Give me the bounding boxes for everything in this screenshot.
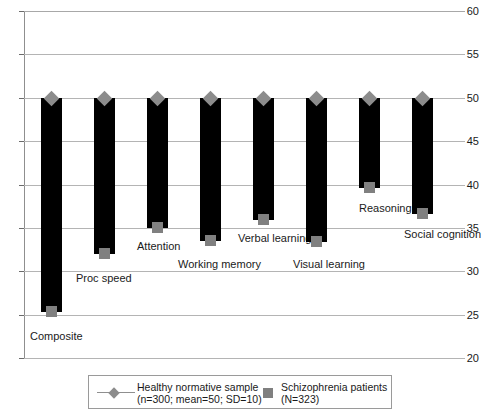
range-bar-verbal-learning [253, 98, 274, 220]
chart-legend: Healthy normative sample (n=300; mean=50… [88, 375, 392, 409]
gridline-20 [24, 358, 465, 359]
y-tick-mark-25 [19, 315, 24, 316]
gridline-35 [24, 228, 465, 229]
y-tick-label-25: 25 [459, 310, 479, 321]
legend-label-schizophrenia-line2: (N=323) [281, 393, 387, 405]
square-marker-icon [263, 388, 273, 398]
y-tick-mark-40 [19, 185, 24, 186]
y-tick-label-50: 50 [459, 93, 479, 104]
gridline-60 [24, 11, 465, 12]
y-tick-label-45: 45 [459, 136, 479, 147]
legend-label-schizophrenia: Schizophrenia patients (N=323) [281, 381, 387, 405]
category-label-working-memory: Working memory [178, 258, 261, 270]
marker-schizophrenia-visual-learning [311, 236, 322, 247]
legend-key-healthy [95, 382, 137, 404]
gridline-45 [24, 141, 465, 142]
y-tick-mark-60 [19, 11, 24, 12]
category-label-verbal-learning: Verbal learning [238, 232, 311, 244]
range-bar-working-memory [200, 98, 221, 241]
legend-label-schizophrenia-line1: Schizophrenia patients [281, 381, 387, 393]
marker-schizophrenia-reasoning [364, 182, 375, 193]
category-label-attention: Attention [137, 240, 180, 252]
y-tick-mark-35 [19, 228, 24, 229]
range-bar-attention [147, 98, 168, 228]
y-tick-mark-50 [19, 98, 24, 99]
marker-schizophrenia-proc-speed [99, 248, 110, 259]
range-bar-proc-speed [94, 98, 115, 254]
legend-entry-healthy: Healthy normative sample (n=300; mean=50… [95, 381, 262, 405]
category-label-visual-learning: Visual learning [293, 258, 365, 270]
y-tick-mark-20 [19, 358, 24, 359]
legend-label-healthy-line1: Healthy normative sample [137, 381, 262, 393]
gridline-55 [24, 54, 465, 55]
gridline-40 [24, 185, 465, 186]
marker-schizophrenia-attention [152, 222, 163, 233]
plot-area [24, 11, 465, 358]
legend-entry-schizophrenia: Schizophrenia patients (N=323) [257, 381, 387, 405]
category-label-social-cognition: Social cognition [404, 228, 481, 240]
range-bar-social-cognition [412, 98, 433, 214]
category-label-proc-speed: Proc speed [76, 272, 132, 284]
y-tick-label-60: 60 [459, 6, 479, 17]
category-label-reasoning: Reasoning [359, 202, 412, 214]
y-tick-label-40: 40 [459, 180, 479, 191]
y-tick-label-20: 20 [459, 353, 479, 364]
y-tick-label-55: 55 [459, 49, 479, 60]
legend-key-schizophrenia [257, 382, 281, 404]
y-tick-label-30: 30 [459, 266, 479, 277]
range-bar-visual-learning [306, 98, 327, 242]
marker-schizophrenia-social-cognition [417, 208, 428, 219]
marker-schizophrenia-verbal-learning [258, 214, 269, 225]
marker-schizophrenia-working-memory [205, 235, 216, 246]
y-tick-mark-30 [19, 271, 24, 272]
range-bar-composite [41, 98, 62, 312]
marker-schizophrenia-composite [46, 306, 57, 317]
range-bar-reasoning [359, 98, 380, 188]
gridline-50 [24, 98, 465, 99]
category-label-composite: Composite [30, 330, 83, 342]
y-tick-mark-45 [19, 141, 24, 142]
legend-label-healthy: Healthy normative sample (n=300; mean=50… [137, 381, 262, 405]
gridline-25 [24, 315, 465, 316]
y-tick-mark-55 [19, 54, 24, 55]
legend-label-healthy-line2: (n=300; mean=50; SD=10) [137, 393, 262, 405]
diamond-marker-icon [108, 387, 119, 398]
